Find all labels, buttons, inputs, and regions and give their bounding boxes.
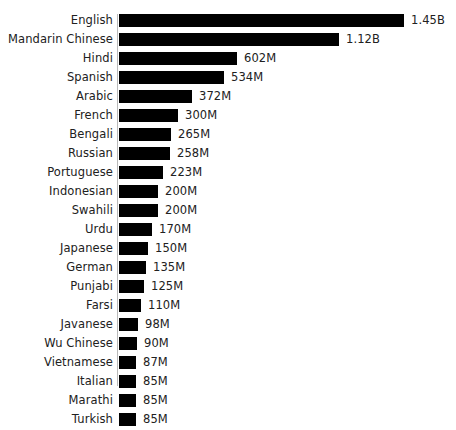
bar: [119, 394, 136, 407]
bar-value-label: 150M: [155, 242, 187, 255]
bar: [119, 375, 136, 388]
bar-row: Javanese98M: [0, 318, 456, 337]
bar: [119, 33, 339, 46]
bar: [119, 299, 141, 312]
bar-value-label: 1.12B: [346, 33, 380, 46]
bar-value-label: 90M: [144, 337, 169, 350]
bar: [119, 128, 171, 141]
bar-value-label: 534M: [231, 71, 263, 84]
bar: [119, 90, 192, 103]
category-label: Swahili: [72, 204, 113, 217]
bar-value-label: 85M: [143, 413, 168, 426]
category-label: Javanese: [60, 318, 113, 331]
category-label: French: [74, 109, 113, 122]
bar-row: Hindi602M: [0, 52, 456, 71]
bar-value-label: 170M: [159, 223, 191, 236]
bar: [119, 109, 178, 122]
bar-row: Arabic372M: [0, 90, 456, 109]
category-label: Mandarin Chinese: [8, 33, 113, 46]
bar-value-label: 85M: [143, 375, 168, 388]
bar-row: Punjabi125M: [0, 280, 456, 299]
bar: [119, 185, 158, 198]
bar-row: Mandarin Chinese1.12B: [0, 33, 456, 52]
bar: [119, 71, 224, 84]
bar-row: Vietnamese87M: [0, 356, 456, 375]
bar: [119, 261, 146, 274]
category-label: Urdu: [85, 223, 113, 236]
bar-row: French300M: [0, 109, 456, 128]
bar-value-label: 135M: [153, 261, 185, 274]
bar-value-label: 223M: [170, 166, 202, 179]
category-label: Italian: [77, 375, 113, 388]
bar-row: Russian258M: [0, 147, 456, 166]
plot-area: English1.45BMandarin Chinese1.12BHindi60…: [0, 14, 456, 430]
bar-value-label: 87M: [143, 356, 168, 369]
bar: [119, 413, 136, 426]
category-label: Bengali: [69, 128, 113, 141]
bar-value-label: 85M: [143, 394, 168, 407]
bar-row: Turkish85M: [0, 413, 456, 430]
bar: [119, 14, 404, 27]
bar-row: Spanish534M: [0, 71, 456, 90]
category-label: Punjabi: [70, 280, 113, 293]
category-label: Japanese: [60, 242, 113, 255]
bar: [119, 204, 158, 217]
category-label: English: [71, 14, 113, 27]
bar-value-label: 265M: [178, 128, 210, 141]
bar-row: Urdu170M: [0, 223, 456, 242]
bar-value-label: 258M: [177, 147, 209, 160]
bar-value-label: 300M: [185, 109, 217, 122]
category-label: Farsi: [86, 299, 113, 312]
category-label: Turkish: [72, 413, 113, 426]
category-label: Hindi: [83, 52, 113, 65]
bar-row: Portuguese223M: [0, 166, 456, 185]
bar: [119, 52, 237, 65]
category-label: Russian: [68, 147, 113, 160]
bar-row: Wu Chinese90M: [0, 337, 456, 356]
category-label: Indonesian: [49, 185, 113, 198]
bar: [119, 337, 137, 350]
bar: [119, 280, 144, 293]
bar-row: German135M: [0, 261, 456, 280]
category-label: Arabic: [76, 90, 113, 103]
bar-value-label: 200M: [165, 204, 197, 217]
bar-row: Bengali265M: [0, 128, 456, 147]
bar-value-label: 110M: [148, 299, 180, 312]
bar-row: Marathi85M: [0, 394, 456, 413]
category-label: German: [66, 261, 113, 274]
bar-row: English1.45B: [0, 14, 456, 33]
bar-row: Indonesian200M: [0, 185, 456, 204]
bar-row: Japanese150M: [0, 242, 456, 261]
category-label: Wu Chinese: [44, 337, 113, 350]
category-label: Portuguese: [47, 166, 113, 179]
bar: [119, 223, 152, 236]
bar-value-label: 98M: [145, 318, 170, 331]
bar-value-label: 125M: [151, 280, 183, 293]
bar-row: Farsi110M: [0, 299, 456, 318]
bar: [119, 242, 148, 255]
bar-value-label: 372M: [199, 90, 231, 103]
bar-row: Swahili200M: [0, 204, 456, 223]
bar-value-label: 1.45B: [411, 14, 445, 27]
bar: [119, 166, 163, 179]
bar: [119, 147, 170, 160]
category-label: Vietnamese: [44, 356, 113, 369]
bar-value-label: 200M: [165, 185, 197, 198]
bar-row: Italian85M: [0, 375, 456, 394]
bar: [119, 318, 138, 331]
category-label: Spanish: [67, 71, 113, 84]
bar: [119, 356, 136, 369]
bar-value-label: 602M: [244, 52, 276, 65]
category-label: Marathi: [69, 394, 113, 407]
